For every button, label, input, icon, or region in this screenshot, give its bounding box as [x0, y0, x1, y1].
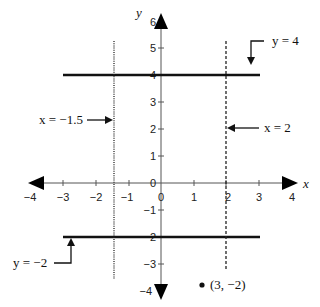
x-tick-label: −2 — [90, 191, 103, 203]
point-3-minus-2: (3, −2) — [199, 277, 245, 292]
y-tick-label: 3 — [150, 96, 156, 108]
x-tick-label: 4 — [289, 191, 295, 203]
annotation-x-equals-minus-1.5: x = −1.5 — [39, 112, 113, 127]
annotation-label-x-2: x = 2 — [264, 120, 291, 135]
y-tick-label: −4 — [139, 285, 152, 297]
arrow-left-icon — [227, 124, 235, 132]
point-marker-icon — [199, 282, 204, 287]
x-tick-label: −1 — [121, 191, 134, 203]
x-origin-label: 0 — [158, 191, 164, 203]
annotation-label-y-minus-2: y = −2 — [13, 255, 47, 270]
y-origin-label: 0 — [150, 177, 156, 189]
x-tick-label: 3 — [256, 191, 262, 203]
point-label: (3, −2) — [210, 277, 246, 292]
x-axis-right-arrow-icon — [282, 176, 298, 190]
x-tick-label: −4 — [24, 191, 37, 203]
annotation-label-x-minus-1.5: x = −1.5 — [39, 112, 83, 127]
annotation-y-equals-4: y = 4 — [247, 33, 299, 65]
y-tick-label: 6 — [150, 16, 156, 28]
annotation-label-y-4: y = 4 — [272, 33, 299, 48]
coordinate-graph: x y −4 −3 −2 −1 0 1 2 3 4 6 5 4 3 — [0, 0, 320, 307]
arrow-right-icon — [105, 116, 113, 124]
x-axis: x — [28, 176, 309, 191]
y-axis-down-arrow-icon — [154, 284, 168, 300]
y-tick-label: 2 — [150, 123, 156, 135]
arrow-up-icon — [67, 238, 75, 246]
x-tick-labels: −4 −3 −2 −1 0 1 2 3 4 — [24, 191, 295, 203]
arrow-down-icon — [247, 57, 255, 65]
y-tick-labels: 6 5 4 3 2 1 0 −1 −2 −3 −4 — [139, 16, 156, 297]
y-tick-label: 5 — [150, 42, 156, 54]
y-axis-up-arrow-icon — [154, 13, 168, 29]
annotation-x-equals-2: x = 2 — [227, 120, 291, 135]
y-tick-label: −3 — [143, 258, 156, 270]
x-axis-left-arrow-icon — [28, 176, 44, 190]
x-axis-label: x — [302, 176, 309, 191]
y-tick-label: 1 — [150, 150, 156, 162]
x-tick-label: 1 — [191, 191, 197, 203]
y-tick-label: −1 — [143, 204, 156, 216]
annotation-y-equals-minus-2: y = −2 — [13, 238, 75, 270]
x-tick-label: −3 — [57, 191, 70, 203]
y-axis-label: y — [134, 5, 142, 20]
